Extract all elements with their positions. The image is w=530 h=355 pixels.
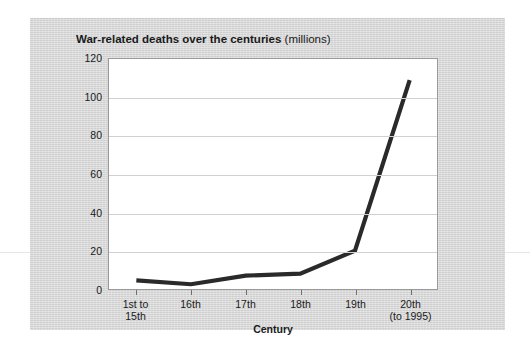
x-axis-tick [136,290,137,295]
y-axis-tick-label: 20 [68,246,102,257]
y-axis-tick-label: 40 [68,208,102,219]
y-axis-tick-label: 60 [68,169,102,180]
x-axis-tick [246,290,247,295]
gridline [109,252,437,253]
x-axis-tick [301,290,302,295]
x-axis-tick [191,290,192,295]
y-axis-tick-label: 80 [68,130,102,141]
x-axis-tick [356,290,357,295]
plot-area [108,58,438,290]
y-axis-tick-label: 120 [68,53,102,64]
chart-line-svg [109,59,437,289]
gridline [109,136,437,137]
chart-title: War-related deaths over the centuries (m… [76,33,331,45]
gridline [109,98,437,99]
y-axis-tick-label: 100 [68,92,102,103]
x-axis-tick-label: 20th (to 1995) [371,298,451,323]
data-series-line [136,80,409,284]
chart-card: War-related deaths over the centuries (m… [30,18,505,330]
y-axis-tick-label: 0 [68,285,102,296]
gridline [109,175,437,176]
x-axis-tick [411,290,412,295]
x-axis-title: Century [108,323,438,335]
chart-title-unit: (millions) [285,33,331,45]
chart-title-main: War-related deaths over the centuries [76,33,281,45]
gridline [109,214,437,215]
